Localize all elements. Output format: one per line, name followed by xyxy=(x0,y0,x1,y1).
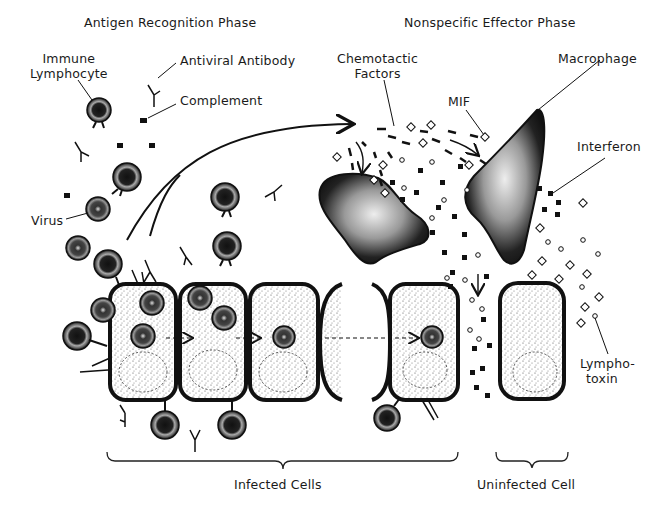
label-lymphotoxin: Lympho- toxin xyxy=(580,356,635,386)
uninfected-cell xyxy=(500,283,564,399)
label-complement: Complement xyxy=(180,93,262,108)
antibody-leader xyxy=(158,63,176,78)
label-uninfected-cell: Uninfected Cell xyxy=(477,477,575,492)
interferon-leader xyxy=(553,158,605,193)
label-mif: MIF xyxy=(448,94,470,109)
braces xyxy=(107,452,568,469)
lymphotoxin-leader xyxy=(595,318,608,354)
label-immune-lymphocyte: Immune Lymphocyte xyxy=(30,51,108,81)
label-interferon: Interferon xyxy=(577,139,641,154)
macrophage-left xyxy=(319,174,428,264)
virus-leader xyxy=(66,213,88,219)
label-virus: Virus xyxy=(31,213,63,228)
macrophage-right xyxy=(465,110,544,264)
label-antiviral-antibody: Antiviral Antibody xyxy=(180,53,295,68)
label-infected-cells: Infected Cells xyxy=(234,477,322,492)
macrophage-leader xyxy=(538,60,600,110)
chemotactic-leader xyxy=(384,80,394,126)
migration-arrows xyxy=(127,124,352,240)
label-chemotactic-factors: Chemotactic Factors xyxy=(337,51,418,81)
heading-antigen-recognition-phase: Antigen Recognition Phase xyxy=(84,15,256,30)
complement-particles xyxy=(64,118,155,198)
heading-nonspecific-effector-phase: Nonspecific Effector Phase xyxy=(404,15,576,30)
complement-leader xyxy=(148,104,176,118)
lymphocyte-leader xyxy=(78,80,92,100)
mif-leader xyxy=(466,110,484,135)
label-macrophage: Macrophage xyxy=(558,51,637,66)
